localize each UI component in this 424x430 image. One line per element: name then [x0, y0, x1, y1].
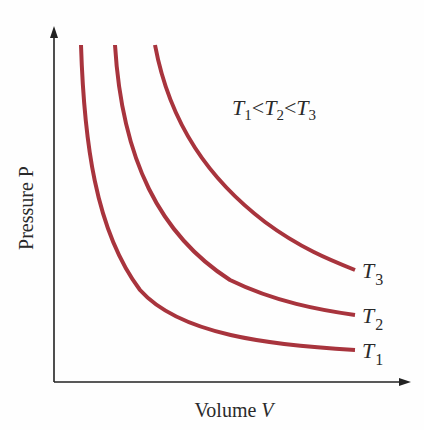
axes: [50, 26, 411, 386]
temperature-order-annotation: T1<T2<T3: [232, 95, 316, 123]
label-t2: T2: [362, 303, 383, 333]
curve-t1: [81, 45, 355, 350]
curve-labels: T3 T2 T1: [362, 258, 383, 368]
x-axis-label: Volume V: [194, 399, 276, 421]
chart: T3 T2 T1 T1<T2<T3 Volume V Pressure P: [0, 0, 424, 430]
isotherm-plot: T3 T2 T1 T1<T2<T3 Volume V Pressure P: [0, 0, 424, 430]
curve-t2: [115, 45, 355, 315]
y-axis-label: Pressure P: [15, 166, 37, 250]
label-t3: T3: [362, 258, 383, 288]
x-axis-arrow-icon: [399, 378, 411, 386]
label-t1: T1: [362, 338, 383, 368]
y-axis-arrow-icon: [50, 26, 58, 38]
curve-t3: [155, 45, 355, 270]
isotherm-curves: [81, 45, 355, 350]
